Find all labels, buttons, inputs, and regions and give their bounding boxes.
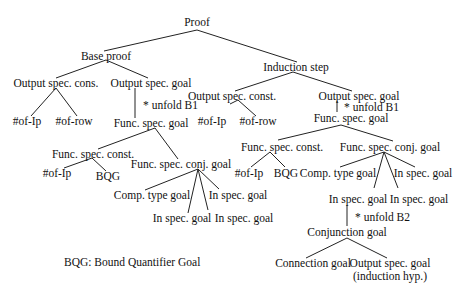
node-base-fsc-bqg: BQG xyxy=(96,170,120,183)
node-ind-comp-type-goal: Comp. type goal xyxy=(300,167,376,180)
node-base-in-spec-goal-2: In spec. goal xyxy=(215,212,273,225)
node-ind-func-spec-const: Func. spec. const. xyxy=(241,141,323,154)
node-ind-func-spec-conj-goal: Func. spec. conj. goal xyxy=(340,141,440,154)
node-base-in-spec-goal-right: In spec. goal xyxy=(209,189,267,202)
node-ind-of-row: #of-row xyxy=(239,115,276,128)
node-ind-output-spec-goal-hyp-line1: Output spec. goal xyxy=(350,257,431,270)
node-base-output-spec-goal: Output spec. goal xyxy=(111,77,192,90)
node-base-in-spec-goal-1: In spec. goal xyxy=(153,212,211,225)
node-proof: Proof xyxy=(184,16,210,29)
node-ind-output-spec-const: Output spec. const. xyxy=(188,90,276,103)
node-ind-of-ip: #of-Ip xyxy=(198,115,227,128)
node-ind-in-spec-goal-a: In spec. goal xyxy=(329,193,387,206)
node-base-func-spec-goal: Func. spec. goal xyxy=(114,117,189,130)
node-ind-fsc-of-ip: #of-Ip xyxy=(235,167,264,180)
node-base-of-ip: #of-Ip xyxy=(13,115,42,128)
node-base-func-spec-const: Func. spec. const. xyxy=(52,148,134,161)
node-base-fsc-of-ip: #of-Ip xyxy=(43,167,72,180)
node-induction-step: Induction step xyxy=(263,61,328,74)
node-ind-fsc-bqg: BQG xyxy=(274,167,298,180)
node-ind-connection-goal: Connection goal xyxy=(275,257,351,270)
annotation-ind-unfold-b2: * unfold B2 xyxy=(355,211,410,224)
node-base-proof: Base proof xyxy=(81,50,131,63)
legend-bqg: BQG: Bound Quantifier Goal xyxy=(64,256,200,269)
node-ind-func-spec-goal: Func. spec. goal xyxy=(314,112,389,125)
node-ind-output-spec-goal-hyp: Output spec. goal (induction hyp.) xyxy=(350,257,431,283)
node-ind-in-spec-goal-b: In spec. goal xyxy=(390,193,448,206)
node-ind-in-spec-goal-right: In spec. goal xyxy=(394,167,452,180)
node-ind-conjunction-goal: Conjunction goal xyxy=(307,226,387,239)
node-base-comp-type-goal: Comp. type goal xyxy=(114,189,190,202)
node-base-of-row: #of-row xyxy=(55,115,92,128)
node-base-output-spec-cons: Output spec. cons. xyxy=(14,77,99,90)
node-ind-output-spec-goal-hyp-line2: (induction hyp.) xyxy=(350,270,431,283)
node-base-func-spec-conj-goal: Func. spec. conj. goal xyxy=(131,158,231,171)
